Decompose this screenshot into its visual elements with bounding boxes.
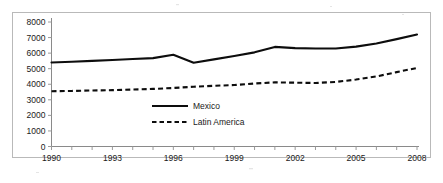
x-tick-label: 1990 xyxy=(42,153,61,163)
series-line-latin-america xyxy=(52,68,418,91)
y-tick-label: 0 xyxy=(41,142,46,152)
chart-container: 0100020003000400050006000700080001990199… xyxy=(0,0,443,183)
series-line-mexico xyxy=(52,34,418,62)
y-tick-label: 5000 xyxy=(27,64,46,74)
y-tick-label: 8000 xyxy=(27,17,46,27)
y-tick-label: 3000 xyxy=(27,95,46,105)
y-tick-label: 2000 xyxy=(27,110,46,120)
y-tick-label: 4000 xyxy=(27,79,46,89)
scan-speck-2 xyxy=(249,168,253,169)
scan-speck-3 xyxy=(36,172,39,173)
x-tick-label: 2002 xyxy=(286,153,305,163)
legend-label-mexico: Mexico xyxy=(193,101,220,111)
scan-speck-1 xyxy=(330,6,332,7)
x-tick-label: 2005 xyxy=(347,153,366,163)
x-tick-label: 1999 xyxy=(225,153,244,163)
scan-speck-4 xyxy=(402,14,404,15)
x-tick-label: 1996 xyxy=(164,153,183,163)
line-chart: 0100020003000400050006000700080001990199… xyxy=(0,0,443,183)
y-tick-label: 7000 xyxy=(27,33,46,43)
y-tick-label: 6000 xyxy=(27,48,46,58)
x-tick-label: 2008 xyxy=(408,153,427,163)
x-tick-label: 1993 xyxy=(103,153,122,163)
y-tick-label: 1000 xyxy=(27,126,46,136)
legend-label-latin-america: Latin America xyxy=(193,117,245,127)
scan-speck-0 xyxy=(176,4,179,5)
